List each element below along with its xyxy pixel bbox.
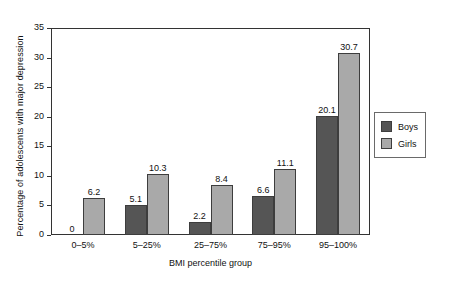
bar-boys <box>189 222 211 235</box>
x-tick-label: 75–95% <box>239 240 309 250</box>
x-tick-label: 25–75% <box>176 240 246 250</box>
bar-boys <box>252 196 274 235</box>
bar-girls <box>338 53 360 235</box>
bar-boys <box>316 116 338 235</box>
bar-girls <box>147 174 169 235</box>
bar-value-girls: 30.7 <box>334 42 364 52</box>
y-tick-label: 30 <box>16 52 44 62</box>
bar-chart: Percentage of adolescents with major dep… <box>0 0 459 285</box>
bar-girls <box>211 185 233 235</box>
bar-boys <box>125 205 147 235</box>
bar-girls <box>83 198 105 235</box>
legend-swatch-boys-icon <box>381 121 392 132</box>
bar-value-girls: 8.4 <box>207 174 237 184</box>
bar-group: 6.611.1 <box>252 28 296 235</box>
bar-value-girls: 6.2 <box>79 187 109 197</box>
x-axis-title: BMI percentile group <box>51 258 370 268</box>
bar-group: 2.28.4 <box>189 28 233 235</box>
legend-item-girls: Girls <box>381 135 418 152</box>
x-tick-label: 5–25% <box>112 240 182 250</box>
bar-girls <box>274 169 296 235</box>
chart-legend: Boys Girls <box>374 112 426 158</box>
legend-item-boys: Boys <box>381 118 418 135</box>
bar-group: 06.2 <box>61 28 105 235</box>
legend-swatch-girls-icon <box>381 138 392 149</box>
y-tick-label: 35 <box>16 22 44 32</box>
y-tick-label: 25 <box>16 81 44 91</box>
legend-label-girls: Girls <box>398 139 417 149</box>
bar-value-girls: 11.1 <box>270 158 300 168</box>
bar-group: 20.130.7 <box>316 28 360 235</box>
bars-layer: 06.25.110.32.28.46.611.120.130.7 <box>51 28 370 235</box>
bar-value-girls: 10.3 <box>143 163 173 173</box>
legend-label-boys: Boys <box>398 122 418 132</box>
bar-group: 5.110.3 <box>125 28 169 235</box>
x-tick-label: 95–100% <box>303 240 373 250</box>
x-tick-label: 0–5% <box>48 240 118 250</box>
y-tick-label: 15 <box>16 140 44 150</box>
y-tick-label: 20 <box>16 111 44 121</box>
y-tick-label: 5 <box>16 199 44 209</box>
y-tick-mark <box>47 235 51 236</box>
y-tick-label: 0 <box>16 229 44 239</box>
y-tick-label: 10 <box>16 170 44 180</box>
